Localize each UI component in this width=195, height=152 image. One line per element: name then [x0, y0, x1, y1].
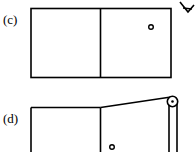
pulley-icon	[167, 96, 177, 106]
physics-diagram: (c) (d)	[0, 0, 195, 152]
panel-d-label: (d)	[3, 111, 18, 126]
panel-d: (d)	[3, 96, 178, 152]
panel-c-label: (c)	[3, 12, 17, 27]
circle-icon	[110, 145, 115, 150]
circle-icon	[149, 25, 154, 30]
eye-icon	[180, 2, 194, 12]
cord	[101, 97, 172, 108]
panel-c: (c)	[3, 2, 194, 78]
